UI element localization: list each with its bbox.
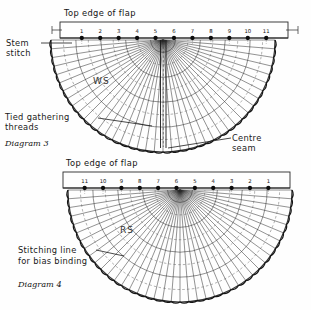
diagram-4-side-label: RS (120, 225, 134, 235)
tied-gathering-label-line1: Tied gathering (4, 112, 70, 122)
diagram-4-dot-2 (248, 186, 252, 190)
diagram-3-dot-3 (117, 36, 121, 40)
diagram-3-dot-11 (264, 36, 268, 40)
diagram-3-dot-10 (246, 36, 250, 40)
diagram-4-dot-4 (211, 186, 215, 190)
diagram-4-dot-1 (266, 186, 270, 190)
diagram-4-number-4: 4 (212, 178, 216, 184)
diagram-3-number-7: 7 (191, 28, 194, 34)
diagram-4-number-7: 7 (156, 178, 159, 184)
diagram-4-number-2: 2 (248, 178, 251, 184)
diagram-4-number-1: 1 (267, 178, 270, 184)
sewing-diagram-canvas: Top edge of flap 1234567891011 WS Stem s… (0, 0, 311, 310)
diagram-3-number-6: 6 (172, 28, 176, 34)
diagram-3-number-9: 9 (228, 28, 231, 34)
diagram-3-number-1: 1 (80, 28, 83, 34)
stem-stitch-label-line2: stitch (6, 48, 31, 58)
diagram-4-number-6: 6 (175, 178, 179, 184)
diagram-4-dot-9 (119, 186, 123, 190)
diagram-4-dot-10 (101, 186, 105, 190)
stitching-line-label-line1: Stitching line (18, 245, 77, 255)
diagram-4-number-3: 3 (230, 178, 233, 184)
diagram-3-group: Top edge of flap 1234567891011 WS Stem s… (4, 8, 298, 153)
stem-stitch-label-line1: Stem (6, 38, 29, 48)
diagram-4-fan (67, 190, 293, 303)
centre-seam-label-line1: Centre (232, 133, 262, 143)
diagram-4-group: Top edge of flap 1110987654321 RS Stitch… (17, 158, 293, 303)
diagram-4-dot-8 (138, 186, 142, 190)
diagram-3-dot-4 (135, 36, 139, 40)
diagram-3-title: Top edge of flap (63, 8, 136, 18)
diagram-3-side-label: WS (93, 76, 110, 86)
diagram-4-dot-11 (83, 186, 87, 190)
diagram-4-number-8: 8 (138, 178, 142, 184)
diagram-4-dot-6 (174, 186, 178, 190)
diagram-4-title: Top edge of flap (65, 158, 138, 168)
diagram-4-number-11: 11 (81, 178, 88, 184)
diagram-3-number-3: 3 (117, 28, 120, 34)
diagram-3-dot-7 (190, 36, 194, 40)
diagram-3-caption: Diagram 3 (4, 138, 49, 148)
diagram-4-number-5: 5 (193, 178, 196, 184)
diagram-3-number-10: 10 (244, 28, 251, 34)
diagram-3-number-5: 5 (154, 28, 157, 34)
diagram-3-number-2: 2 (99, 28, 102, 34)
diagram-3-number-4: 4 (135, 28, 139, 34)
diagram-sheet: Top edge of flap 1234567891011 WS Stem s… (0, 0, 311, 310)
diagram-3-dot-5 (153, 36, 157, 40)
diagram-3-dot-6 (172, 36, 176, 40)
diagram-4-dot-5 (193, 186, 197, 190)
diagram-3-dot-8 (209, 36, 213, 40)
stitching-line-label-line2: for bias binding (18, 256, 87, 266)
diagram-3-dot-2 (98, 36, 102, 40)
centre-seam-label-line2: seam (232, 143, 256, 153)
diagram-3-dot-9 (227, 36, 231, 40)
diagram-4-caption: Diagram 4 (17, 279, 62, 289)
diagram-3-number-11: 11 (263, 28, 270, 34)
diagram-3-number-8: 8 (209, 28, 213, 34)
diagram-4-dot-3 (229, 186, 233, 190)
diagram-4-dot-7 (156, 186, 160, 190)
tied-gathering-label-line2: threads (5, 122, 39, 132)
diagram-4-number-10: 10 (100, 178, 107, 184)
diagram-4-number-9: 9 (120, 178, 123, 184)
diagram-3-dot-1 (80, 36, 84, 40)
